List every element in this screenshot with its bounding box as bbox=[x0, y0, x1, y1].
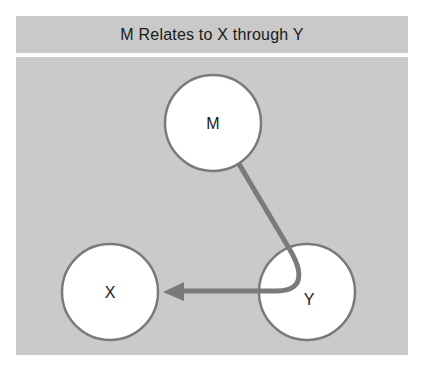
node-m: M bbox=[165, 75, 261, 171]
node-y-label: Y bbox=[304, 291, 315, 308]
node-x: X bbox=[62, 244, 158, 340]
node-m-label: M bbox=[206, 115, 219, 132]
diagram-canvas: M X Y bbox=[0, 0, 423, 371]
arrowhead-icon bbox=[163, 282, 184, 301]
node-x-label: X bbox=[105, 284, 116, 301]
